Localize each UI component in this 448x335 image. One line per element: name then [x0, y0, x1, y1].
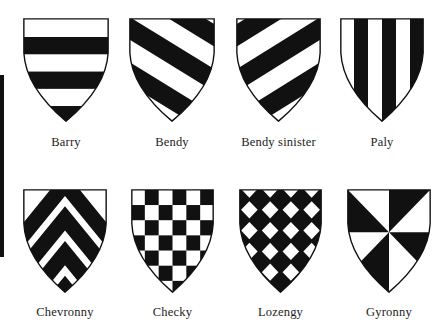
shield-checky — [131, 189, 214, 293]
shield-bendy-sinister — [236, 18, 321, 122]
paly-pattern — [354, 18, 424, 122]
gyronny-shield-icon — [347, 189, 431, 293]
chevronny-shield-icon — [23, 189, 107, 293]
shield-bendy — [129, 18, 215, 122]
paly-shield-icon — [340, 18, 424, 122]
shield-label-gyronny: Gyronny — [319, 305, 448, 320]
bendy-sinister-shield-icon — [236, 18, 321, 122]
shield-chevronny — [23, 189, 107, 293]
shield-paly — [340, 18, 424, 122]
page-edge-bar — [0, 75, 4, 257]
lozengy-pattern — [239, 189, 322, 293]
shield-label-paly: Paly — [312, 135, 448, 150]
checky-shield-icon — [131, 189, 214, 293]
lozengy-shield-icon — [239, 189, 322, 293]
barry-pattern — [23, 37, 109, 122]
shield-barry — [23, 18, 109, 122]
bendy-shield-icon — [129, 18, 215, 122]
barry-shield-icon — [23, 18, 109, 122]
shield-lozengy — [239, 189, 322, 293]
shield-gyronny — [347, 189, 431, 293]
